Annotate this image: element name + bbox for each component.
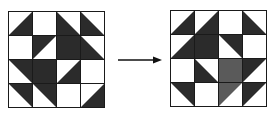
quilt-cell — [171, 59, 195, 83]
quilt-cell — [9, 84, 33, 108]
quilt-cell — [9, 12, 33, 36]
triangle-patch — [171, 35, 195, 59]
quilt-cell — [57, 36, 81, 60]
cell-border — [81, 60, 105, 84]
quilt-grid-after — [170, 10, 267, 107]
triangle-patch — [57, 36, 81, 60]
triangle-patch — [171, 11, 195, 35]
arrow-right-icon — [116, 54, 164, 66]
quilt-grid-after-graphic — [170, 10, 267, 107]
triangle-patch — [195, 11, 219, 35]
quilt-cell — [195, 35, 219, 59]
triangle-patch — [195, 59, 219, 83]
quilt-grid-before — [8, 11, 105, 108]
quilt-cell — [219, 83, 243, 107]
quilt-cell — [243, 83, 267, 107]
triangle-patch — [171, 83, 195, 107]
triangle-patch — [33, 84, 57, 108]
triangle-patch — [219, 83, 243, 107]
cell-border — [243, 35, 267, 59]
triangle-patch — [33, 60, 57, 84]
quilt-cell — [33, 84, 57, 108]
triangle-patch — [9, 12, 33, 36]
quilt-cell — [171, 83, 195, 107]
triangle-patch — [243, 11, 267, 35]
quilt-cell — [171, 11, 195, 35]
cell-border — [219, 11, 243, 35]
triangle-patch — [243, 83, 267, 107]
quilt-cell — [81, 60, 105, 84]
triangle-patch — [57, 12, 81, 36]
cell-border — [57, 84, 81, 108]
quilt-cell — [195, 83, 219, 107]
quilt-cell — [33, 12, 57, 36]
cell-border — [171, 59, 195, 83]
quilt-cell — [243, 35, 267, 59]
quilt-cell — [81, 36, 105, 60]
quilt-cell — [57, 12, 81, 36]
quilt-cell — [243, 59, 267, 83]
triangle-patch — [219, 59, 243, 83]
quilt-cell — [219, 11, 243, 35]
cell-border — [9, 36, 33, 60]
triangle-patch — [243, 59, 267, 83]
quilt-cell — [219, 35, 243, 59]
triangle-patch — [33, 36, 57, 60]
quilt-cell — [9, 60, 33, 84]
quilt-cell — [195, 59, 219, 83]
quilt-cell — [243, 11, 267, 35]
cell-border — [195, 83, 219, 107]
quilt-cell — [171, 35, 195, 59]
triangle-patch — [81, 12, 105, 36]
quilt-cell — [219, 59, 243, 83]
triangle-patch — [57, 60, 81, 84]
cell-border — [33, 12, 57, 36]
quilt-cell — [57, 60, 81, 84]
quilt-grid-before-graphic — [8, 11, 105, 108]
triangle-patch — [9, 84, 33, 108]
triangle-patch — [9, 60, 33, 84]
triangle-patch — [219, 35, 243, 59]
quilt-cell — [57, 84, 81, 108]
triangle-patch — [81, 84, 105, 108]
triangle-patch — [195, 35, 219, 59]
quilt-cell — [81, 12, 105, 36]
triangle-patch — [81, 36, 105, 60]
quilt-cell — [33, 60, 57, 84]
transform-arrow — [116, 52, 164, 64]
quilt-cell — [33, 36, 57, 60]
quilt-cell — [81, 84, 105, 108]
quilt-cell — [195, 11, 219, 35]
quilt-cell — [9, 36, 33, 60]
